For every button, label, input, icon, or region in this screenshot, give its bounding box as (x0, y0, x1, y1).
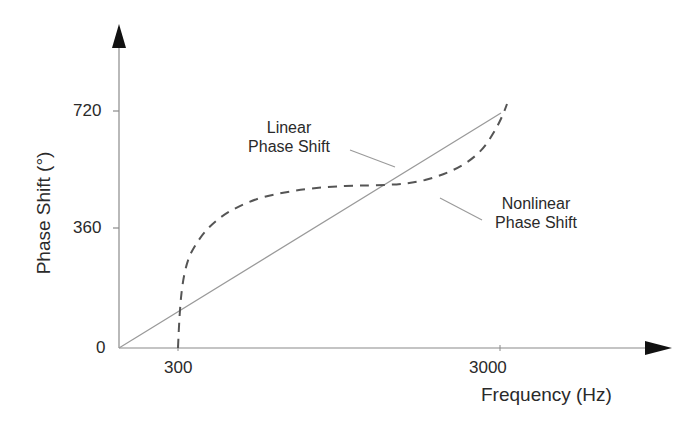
xtick-300-label: 300 (164, 358, 192, 378)
linear-annotation-leader (350, 150, 395, 167)
ytick-360-label: 360 (73, 218, 101, 238)
nonlinear-annotation-leader (440, 198, 482, 220)
xtick-3000-label: 3000 (469, 358, 507, 378)
nonlinear-phase-curve (178, 104, 507, 348)
nonlinear-phase-annotation: Nonlinear Phase Shift (484, 194, 588, 232)
phase-shift-chart (0, 0, 700, 436)
x-axis-arrow-icon (645, 341, 672, 355)
linear-annotation-line1: Linear (237, 118, 341, 137)
linear-annotation-line2: Phase Shift (237, 137, 341, 156)
y-axis-arrow-icon (112, 24, 126, 48)
y-axis-title: Phase Shift (°) (33, 152, 55, 275)
x-axis-title: Frequency (Hz) (481, 384, 612, 406)
ytick-720-label: 720 (73, 101, 101, 121)
nonlinear-annotation-line1: Nonlinear (484, 194, 588, 213)
ytick-0-label: 0 (96, 338, 105, 358)
nonlinear-annotation-line2: Phase Shift (484, 213, 588, 232)
linear-phase-annotation: Linear Phase Shift (237, 118, 341, 156)
